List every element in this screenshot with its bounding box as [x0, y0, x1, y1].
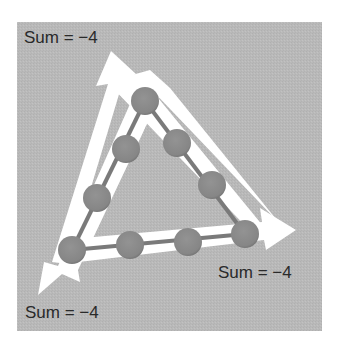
node-bottom-1: [116, 231, 144, 259]
node-left-2: [83, 184, 111, 212]
node-right-1: [163, 129, 191, 157]
magic-triangle-figure: Sum = −4 Sum = −4 Sum = −4: [0, 0, 338, 348]
sum-label-top-left: Sum = −4: [24, 28, 98, 47]
node-left-1: [112, 135, 140, 163]
node-bottom-2: [174, 228, 202, 256]
sum-label-right: Sum = −4: [218, 263, 292, 282]
magic-triangle-diagram: Sum = −4 Sum = −4 Sum = −4: [0, 0, 338, 348]
node-bottom-left-corner: [58, 236, 86, 264]
node-top-corner: [131, 87, 159, 115]
node-bottom-right-corner: [231, 220, 259, 248]
sum-label-bottom-left: Sum = −4: [25, 303, 99, 322]
node-right-2: [198, 171, 226, 199]
